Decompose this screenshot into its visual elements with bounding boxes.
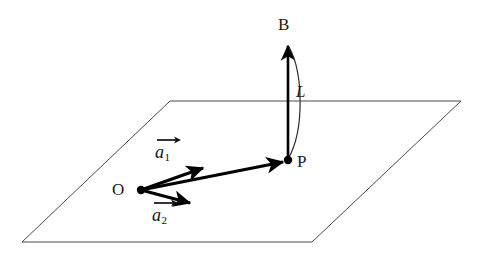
point-o-dot — [137, 186, 145, 194]
point-o-label: O — [112, 181, 124, 198]
vector-op — [141, 162, 283, 190]
vector-a2-label: a2 — [152, 198, 179, 226]
point-b-label: B — [278, 16, 289, 33]
vector-a1-symbol: a1 — [155, 143, 182, 163]
over-arrow-icon — [156, 135, 182, 144]
arc-length-l — [288, 47, 300, 159]
vector-a2-base: a — [152, 205, 161, 225]
arc-length-label: L — [296, 83, 305, 100]
point-p-label: P — [297, 153, 306, 170]
vector-a1-base: a — [155, 142, 164, 162]
vector-a1-label: a1 — [155, 135, 182, 163]
vector-diagram: O P B L a1 a2 — [0, 0, 482, 262]
point-p-dot — [284, 156, 292, 164]
vector-a2-symbol: a2 — [152, 206, 179, 226]
over-arrow-icon — [153, 198, 179, 207]
vector-a2-subscript: 2 — [162, 214, 168, 226]
vector-a1-subscript: 1 — [165, 151, 171, 163]
diagram-canvas — [0, 0, 482, 262]
